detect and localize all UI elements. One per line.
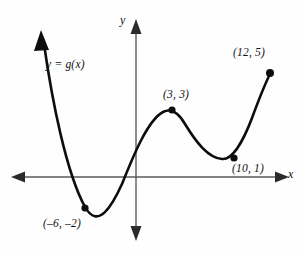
curve-left-arrow-icon (34, 30, 49, 51)
x-axis-label: x (288, 168, 294, 180)
function-label: y = g(x) (46, 59, 85, 71)
x-axis-right-arrow-icon (275, 172, 289, 183)
point-dot-endpoint (266, 69, 274, 77)
point-label-max-middle: (3, 3) (163, 89, 189, 101)
point-label-endpoint: (12, 5) (233, 47, 265, 59)
y-axis-bottom-arrow-icon (131, 226, 142, 241)
y-axis-top-arrow-icon (131, 19, 142, 34)
graph-figure: y = g(x) y x (–6, –2) (3, 3) (10, 1) (12… (0, 0, 303, 257)
point-dot-max-middle (168, 106, 175, 113)
point-dot-min-left (81, 204, 88, 211)
point-dot-min-right (230, 154, 237, 161)
point-label-min-left: (–6, –2) (43, 218, 81, 230)
point-label-min-right: (10, 1) (232, 163, 264, 175)
x-axis-left-arrow-icon (11, 172, 25, 183)
y-axis (131, 19, 142, 241)
y-axis-label: y (120, 14, 126, 26)
